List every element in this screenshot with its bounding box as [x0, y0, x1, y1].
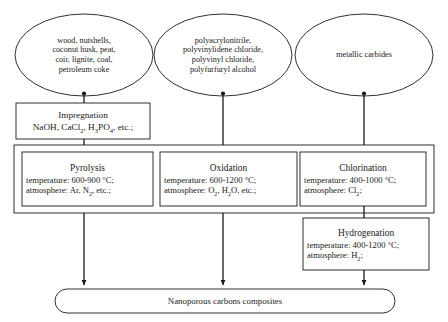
source-ellipse-biomass	[15, 14, 153, 96]
process-box-pyrolysis	[22, 152, 153, 206]
product-terminator-box	[55, 289, 395, 313]
process-box-oxidation	[160, 152, 297, 206]
junction-dot-carbides	[362, 91, 366, 95]
flowchart-shapes	[0, 0, 448, 322]
flowchart-canvas: wood, nutshells, coconut husk, peat, coi…	[0, 0, 448, 322]
source-ellipse-polymers	[154, 14, 292, 96]
hydrogenation-box	[303, 218, 429, 270]
process-box-chlorination	[300, 152, 426, 206]
source-ellipse-carbides	[295, 14, 433, 96]
impregnation-box	[16, 103, 150, 139]
junction-dot-polymers	[221, 91, 225, 95]
junction-dot-biomass	[82, 91, 86, 95]
